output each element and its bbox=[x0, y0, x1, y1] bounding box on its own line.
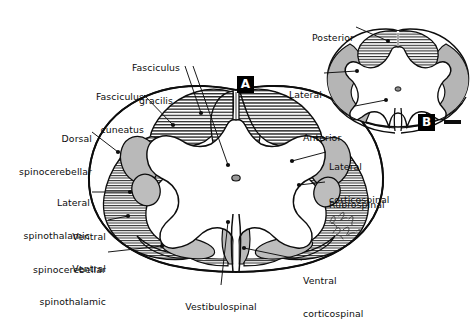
inset-central-canal bbox=[395, 87, 401, 91]
label-rubrospinal-line1: Rubrospinal bbox=[329, 199, 429, 210]
label-dorsal-spinocerebellar-line1: Dorsal bbox=[0, 133, 92, 144]
label-posterior: Posterior bbox=[312, 10, 392, 65]
inset-scale-bar bbox=[444, 120, 461, 124]
label-anterior: Anterior bbox=[303, 110, 373, 165]
label-ventral-spinothalamic: Ventral spinothalamic bbox=[2, 241, 106, 323]
label-anterior-line1: Anterior bbox=[303, 132, 373, 143]
label-vestibulospinal: Vestibulospinal bbox=[166, 279, 276, 323]
label-rubrospinal: Rubrospinal bbox=[329, 177, 429, 232]
panel-marker-b: B bbox=[418, 114, 435, 131]
label-ventral-spinothalamic-line2: spinothalamic bbox=[2, 296, 106, 307]
label-posterior-line1: Posterior bbox=[312, 32, 392, 43]
label-vestibulospinal-line1: Vestibulospinal bbox=[166, 301, 276, 312]
central-canal bbox=[232, 175, 240, 181]
label-ventral-corticospinal-line1: Ventral bbox=[303, 275, 407, 286]
label-ventral-corticospinal: Ventral corticospinal bbox=[303, 253, 407, 323]
label-lateral-spinothalamic-line1: Lateral bbox=[0, 197, 90, 208]
panel-marker-a: A bbox=[237, 76, 254, 93]
label-fasciculus-cuneatus-line1: Fasciculus bbox=[38, 91, 144, 102]
label-ventral-spinothalamic-line1: Ventral bbox=[2, 263, 106, 274]
label-lateral-line1: Lateral bbox=[270, 89, 322, 100]
label-ventral-corticospinal-line2: corticospinal bbox=[303, 308, 407, 319]
